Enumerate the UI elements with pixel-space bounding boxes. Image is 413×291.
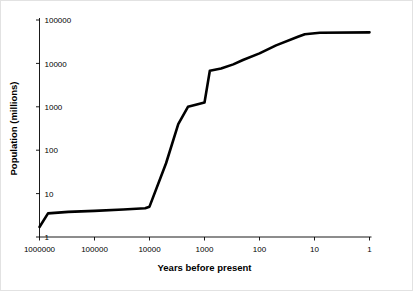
x-tick-label: 1000000 bbox=[24, 245, 56, 254]
population-line-chart: 1101001000100001000001000000100000100001… bbox=[1, 1, 413, 291]
x-tick-label: 1000 bbox=[196, 245, 214, 254]
y-tick-label: 100 bbox=[45, 146, 59, 155]
y-tick-label: 10000 bbox=[45, 60, 68, 69]
y-tick-label: 1000 bbox=[45, 103, 63, 112]
chart-figure: 1101001000100001000001000000100000100001… bbox=[0, 0, 413, 291]
x-tick-label: 1 bbox=[367, 245, 372, 254]
x-tick-label: 10000 bbox=[138, 245, 161, 254]
y-tick-label: 10 bbox=[45, 190, 54, 199]
x-axis-title: Years before present bbox=[158, 262, 253, 273]
x-tick-label: 10 bbox=[310, 245, 319, 254]
data-series-line bbox=[40, 32, 370, 227]
y-tick-label: 1 bbox=[45, 233, 50, 242]
y-axis-title: Population (millions) bbox=[8, 82, 19, 176]
y-tick-label: 100000 bbox=[45, 16, 72, 25]
x-tick-label: 100000 bbox=[81, 245, 108, 254]
x-tick-label: 100 bbox=[253, 245, 267, 254]
